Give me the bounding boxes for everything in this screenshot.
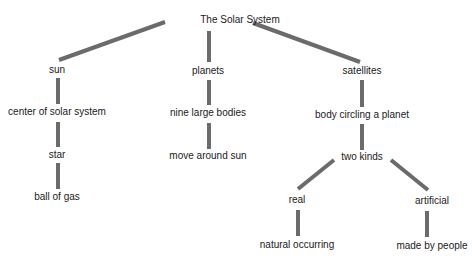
node-body: body circling a planet: [315, 109, 409, 121]
link-twokinds-real: [298, 160, 334, 189]
node-star: star: [49, 149, 66, 161]
node-twokinds: two kinds: [341, 151, 383, 163]
node-ball: ball of gas: [34, 191, 80, 203]
node-center: center of solar system: [8, 106, 106, 118]
node-planets: planets: [192, 65, 224, 77]
node-satellites: satellites: [343, 65, 382, 77]
link-root-satellites: [253, 23, 360, 62]
node-nine: nine large bodies: [170, 107, 246, 119]
node-natural: natural occurring: [260, 239, 334, 251]
link-root-sun: [59, 22, 165, 60]
node-sun: sun: [49, 64, 65, 76]
node-root: The Solar System: [200, 14, 279, 26]
node-real: real: [289, 194, 306, 206]
link-twokinds-artificial: [391, 160, 428, 190]
diagram-links: [0, 0, 475, 267]
node-artificial: artificial: [415, 195, 449, 207]
node-people: made by people: [396, 240, 467, 252]
node-move: move around sun: [169, 150, 246, 162]
